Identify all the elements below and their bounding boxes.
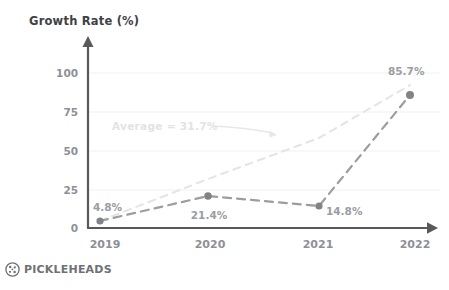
y-tick-100: 100 [56,67,78,79]
x-tick-2020: 2020 [195,238,226,251]
y-axis [83,36,94,228]
y-tick-0: 0 [71,222,78,234]
y-tick-50: 50 [63,145,78,157]
average-annotation-arrow [213,126,277,138]
x-tick-2022: 2022 [400,238,431,251]
x-tick-2021: 2021 [303,238,334,251]
watermark: PICKLEHEADS [5,262,112,277]
data-label-2020: 21.4% [191,209,228,221]
data-label-2021: 14.8% [326,205,363,217]
growth-rate-series [100,95,410,221]
chart-container: Growth Rate (%) 100 75 50 25 0 2019 2020 [0,0,449,290]
data-point-2021 [315,202,322,209]
y-tick-75: 75 [63,106,78,118]
x-tick-2019: 2019 [90,238,121,251]
data-point-2022 [406,91,414,99]
data-point-2019 [96,217,103,224]
data-label-2019: 4.8% [93,201,123,213]
chart-plot-area: 100 75 50 25 0 2019 2020 2021 2022 Avera… [0,0,449,290]
y-tick-25: 25 [63,184,78,196]
x-axis [88,222,438,234]
average-annotation-label: Average = 31.7% [112,120,218,132]
data-point-2020 [204,192,212,200]
data-label-2022: 85.7% [388,65,425,77]
watermark-brand: PICKLEHEADS [24,263,112,276]
pickleball-icon [5,262,20,277]
